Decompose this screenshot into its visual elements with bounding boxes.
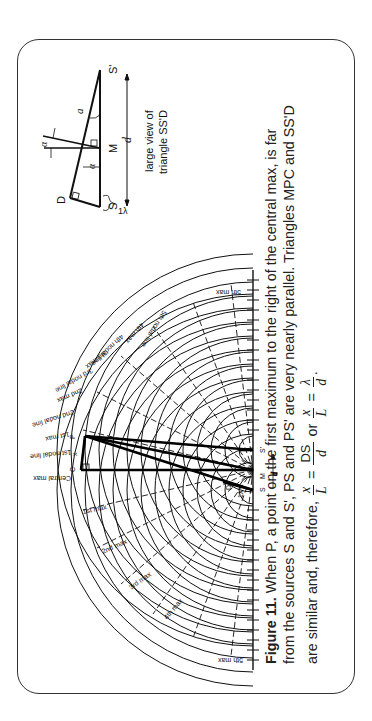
inset-label-d: d: [120, 136, 134, 143]
label-1st-nodal-line: 1st nodal line: [30, 449, 72, 460]
inset-label-D: D: [55, 196, 67, 204]
figure-number: Figure 11.: [263, 597, 279, 664]
inset-label-S-prime: S': [107, 65, 119, 74]
fraction-lambda-over-d: λd: [298, 377, 329, 387]
caption-line-3: are similar and, therefore, xL = DSd or …: [298, 54, 329, 664]
figure-caption: Figure 11. When P, a point on the first …: [263, 54, 329, 664]
inset-label-alpha-lower: α: [86, 163, 97, 169]
rotated-page: C P x L S M S' D 1λ d Central max 1st no…: [17, 37, 357, 694]
label-L: L: [161, 450, 168, 454]
fraction-DS-over-d: DSd: [298, 443, 329, 465]
inset-triangle: [43, 70, 129, 211]
inset-label-one-lambda: 1λ: [118, 206, 128, 216]
fraction-x-over-L: xL: [298, 485, 329, 495]
label-5th-max-left: 5th max: [218, 657, 243, 664]
label-C: C: [69, 467, 76, 472]
inset-caption: large view of triangle SS'D: [143, 109, 169, 174]
triangle-MPC: [81, 436, 253, 490]
inset-label-M: M: [107, 144, 119, 153]
inset-label-a: a: [73, 108, 85, 114]
inset-caption-line2: triangle SS'D: [157, 110, 169, 174]
label-central-max: Central max: [33, 475, 71, 482]
caption-line-2: from the sources S and S', PS and PS' ar…: [281, 54, 299, 664]
label-one-lambda: 1λ: [237, 490, 244, 498]
label-D: D: [225, 485, 232, 490]
label-5th-nodal-line: 5th nodal line: [140, 309, 168, 348]
inset-caption-line1: large view of: [143, 109, 155, 172]
label-4th-nodal-line: 4th nodal line: [90, 333, 125, 367]
caption-line-1: Figure 11. When P, a point on the first …: [263, 54, 281, 664]
inset-label-alpha-upper: α: [38, 141, 49, 147]
fraction-x-over-L-2: xL: [298, 408, 329, 418]
label-5th-max-right: 5th max: [216, 289, 241, 296]
label-2nd-nodal-line: 2nd nodal line: [31, 409, 75, 429]
